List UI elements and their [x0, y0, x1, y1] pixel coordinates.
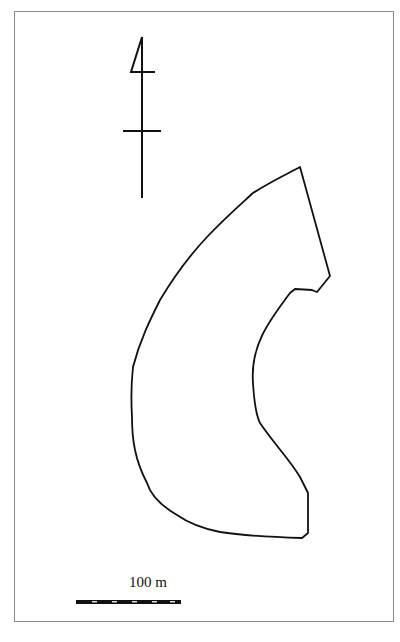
north-arrow-icon — [123, 37, 161, 198]
scale-bar — [76, 600, 181, 604]
map-canvas — [0, 0, 400, 642]
scale-bar-label: 100 m — [129, 574, 167, 591]
site-boundary — [131, 167, 330, 538]
